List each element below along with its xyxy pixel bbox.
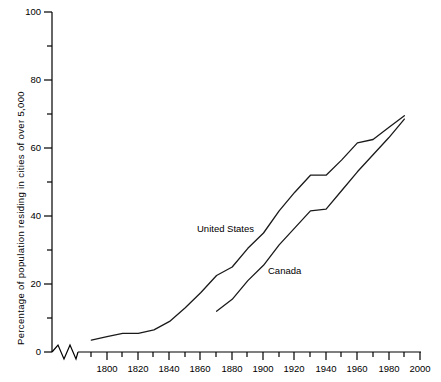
series-line-canada [217, 119, 405, 311]
x-tick-label-1940: 1940 [315, 363, 336, 374]
y-axis-title: Percentage of population residing in cit… [15, 91, 26, 345]
x-tick-label-1900: 1900 [252, 363, 273, 374]
chart-container: 100 80 60 40 20 0 [0, 0, 441, 382]
series-label-united-states: United States [197, 223, 254, 234]
x-tick-label-1820: 1820 [127, 363, 148, 374]
y-tick-label-20: 20 [30, 278, 41, 289]
y-axis-minor-ticks [47, 46, 52, 318]
x-tick-label-1800: 1800 [96, 363, 117, 374]
y-tick-label-80: 80 [30, 74, 41, 85]
x-tick-label-1920: 1920 [283, 363, 304, 374]
x-tick-label-1860: 1860 [189, 363, 210, 374]
y-tick-label-100: 100 [25, 6, 41, 17]
x-tick-label-2000: 2000 [409, 363, 430, 374]
axis-break-zigzag-icon [52, 345, 78, 359]
x-tick-label-1960: 1960 [346, 363, 367, 374]
x-tick-label-1840: 1840 [158, 363, 179, 374]
x-tick-label-1880: 1880 [221, 363, 242, 374]
x-tick-label-1980: 1980 [378, 363, 399, 374]
line-chart: 100 80 60 40 20 0 [0, 0, 441, 382]
y-tick-label-40: 40 [30, 210, 41, 221]
y-tick-label-60: 60 [30, 142, 41, 153]
y-tick-label-0: 0 [36, 346, 41, 357]
series-label-canada: Canada [268, 265, 302, 276]
